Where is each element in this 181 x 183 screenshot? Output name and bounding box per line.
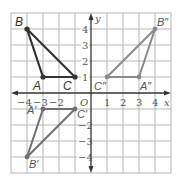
x-tick-label: 2	[120, 97, 126, 108]
label-b-double-prime: B″	[157, 16, 169, 28]
label-c-double-prime: C″	[94, 80, 107, 92]
y-tick-label: 4	[82, 24, 88, 35]
y-tick-label: −2	[78, 120, 93, 131]
y-tick-label: 3	[82, 40, 88, 51]
point-c	[72, 74, 77, 79]
y-tick-label: −3	[78, 136, 93, 147]
label-c: C	[63, 79, 72, 93]
x-axis-right-arrow-icon	[164, 91, 171, 96]
x-tick-label: −2	[49, 97, 64, 108]
x-axis-label: x	[164, 97, 170, 108]
point-b	[24, 26, 29, 31]
x-tick-label: 4	[152, 97, 158, 108]
origin-label: O	[80, 97, 88, 108]
point-a-prime	[41, 107, 46, 112]
label-b: B	[15, 15, 23, 29]
y-tick-label: 1	[82, 72, 88, 83]
x-tick-label: 1	[104, 97, 110, 108]
point-a-double-prime	[137, 75, 142, 80]
x-tick-label: 3	[136, 97, 142, 108]
triangle-abc: B A C	[15, 15, 78, 93]
x-axis-left-arrow-icon	[11, 91, 18, 96]
label-c-prime: C′	[77, 108, 88, 120]
triangle-a-double-prime-b-double-prime-c-double-prime: B″ A″ C″	[94, 16, 169, 92]
y-axis-up-arrow-icon	[89, 13, 94, 20]
coordinate-plane: y x O −4 −3 −2 1 2 3 4 4 3 2 1 −2 −3 −4 …	[0, 0, 181, 183]
label-a-prime: A′	[26, 104, 37, 116]
point-a	[40, 74, 45, 79]
label-a-double-prime: A″	[139, 80, 152, 92]
y-tick-label: 2	[82, 56, 88, 67]
label-a: A	[32, 79, 41, 93]
y-axis-label: y	[94, 13, 101, 24]
y-axis-down-arrow-icon	[89, 166, 94, 173]
y-tick-label: −4	[78, 152, 93, 163]
point-c-double-prime	[105, 75, 110, 80]
label-b-prime: B′	[29, 158, 39, 170]
